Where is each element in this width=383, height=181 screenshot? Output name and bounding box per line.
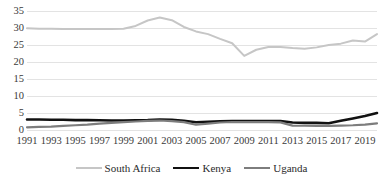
series-line-south-africa [27, 17, 377, 55]
legend-item-south-africa[interactable]: South Africa [76, 162, 161, 174]
y-tick-label: 20 [2, 57, 24, 67]
gridline [27, 130, 377, 131]
x-tick-label: 2005 [185, 135, 206, 147]
y-tick-label: 10 [2, 91, 24, 101]
series-lines [27, 11, 377, 130]
y-tick-label: 35 [2, 6, 24, 16]
x-tick-label: 2011 [258, 135, 279, 147]
y-tick-label: 15 [2, 74, 24, 84]
y-tick-label: 30 [2, 23, 24, 33]
x-tick-label: 1991 [17, 135, 38, 147]
x-tick-label: 2019 [354, 135, 375, 147]
x-tick-label: 2013 [282, 135, 303, 147]
x-tick-label: 1993 [41, 135, 62, 147]
legend-label: South Africa [105, 162, 161, 174]
y-axis: 05101520253035 [0, 0, 24, 141]
line-chart: 05101520253035 1991199319951997199920012… [0, 0, 383, 181]
x-tick-label: 1999 [113, 135, 134, 147]
legend-swatch-icon [244, 167, 270, 169]
legend-label: Uganda [273, 162, 307, 174]
x-tick-label: 2001 [137, 135, 158, 147]
chart-legend: South AfricaKenyaUganda [0, 158, 383, 178]
x-tick-label: 2003 [161, 135, 182, 147]
x-tick-label: 2007 [210, 135, 231, 147]
x-tick-label: 2009 [234, 135, 255, 147]
y-tick-label: 25 [2, 40, 24, 50]
legend-item-uganda[interactable]: Uganda [244, 162, 307, 174]
x-axis: 1991199319951997199920012003200520072009… [27, 135, 377, 151]
series-line-kenya [27, 113, 377, 123]
legend-swatch-icon [76, 167, 102, 169]
x-tick-label: 1995 [65, 135, 86, 147]
x-tick-label: 2017 [330, 135, 351, 147]
legend-label: Kenya [202, 162, 231, 174]
legend-swatch-icon [173, 167, 199, 170]
x-tick-label: 2015 [306, 135, 327, 147]
y-tick-label: 0 [2, 125, 24, 135]
plot-area [27, 11, 377, 130]
legend-item-kenya[interactable]: Kenya [173, 162, 231, 174]
y-tick-label: 5 [2, 108, 24, 118]
x-tick-label: 1997 [89, 135, 110, 147]
